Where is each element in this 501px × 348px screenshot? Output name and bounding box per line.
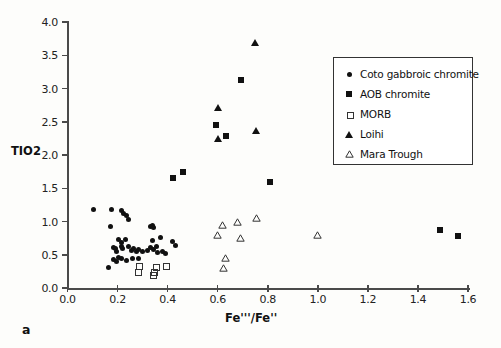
- legend-item-morb[interactable]: MORB: [342, 107, 391, 121]
- data-point: [219, 264, 228, 272]
- panel-label: a: [22, 322, 30, 337]
- figure-panel-a: 0.00.51.01.52.02.53.03.54.0 0.00.20.40.6…: [0, 0, 501, 348]
- data-point: [233, 218, 242, 226]
- filled-square-icon: [342, 88, 356, 100]
- data-point: [252, 214, 261, 222]
- legend-label: AOB chromite: [360, 88, 430, 100]
- data-point: [218, 221, 227, 229]
- data-point: [236, 234, 245, 242]
- open-square-icon: [342, 108, 356, 120]
- scatter-plot-area: 0.00.51.01.52.02.53.03.54.0 0.00.20.40.6…: [0, 0, 501, 348]
- legend: Coto gabbroic chromiteAOB chromiteMORBLo…: [333, 57, 473, 165]
- data-point: [221, 254, 230, 262]
- filled-circle-icon: [342, 68, 356, 80]
- legend-label: Coto gabbroic chromite: [360, 68, 479, 80]
- legend-item-coto-gabbroic-chromite[interactable]: Coto gabbroic chromite: [342, 67, 479, 81]
- legend-label: Mara Trough: [360, 148, 423, 160]
- data-point: [313, 231, 322, 239]
- legend-label: MORB: [360, 108, 391, 120]
- data-point: [213, 231, 222, 239]
- filled-triangle-icon: [342, 128, 356, 140]
- series-mara-trough: [0, 0, 501, 348]
- legend-item-loihi[interactable]: Loihi: [342, 127, 384, 141]
- open-triangle-icon: [342, 148, 356, 160]
- legend-item-aob-chromite[interactable]: AOB chromite: [342, 87, 430, 101]
- legend-label: Loihi: [360, 128, 384, 140]
- legend-item-mara-trough[interactable]: Mara Trough: [342, 147, 423, 161]
